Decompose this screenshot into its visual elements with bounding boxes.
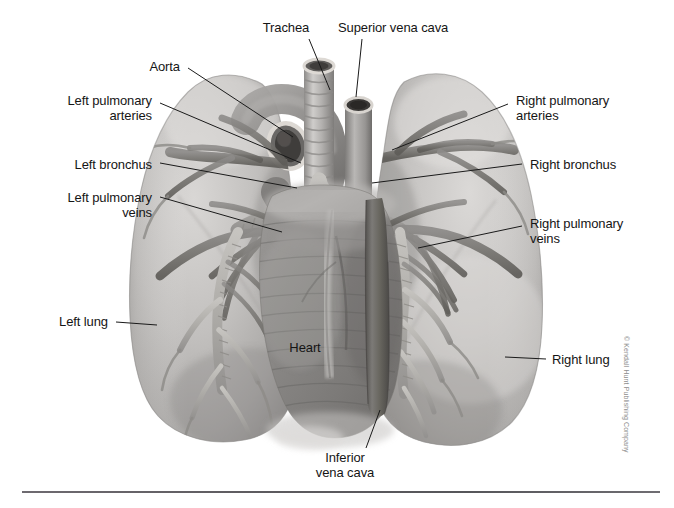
label-left-bronchus: Left bronchus [22, 157, 152, 172]
label-superior-vena-cava: Superior vena cava [338, 20, 498, 35]
label-right-lung: Right lung [552, 352, 648, 367]
copyright-notice: © Kendall Hunt Publishing Company [623, 336, 630, 476]
anatomy-figure: TracheaSuperior vena cavaAortaLeft pulmo… [0, 0, 674, 508]
bottom-divider-rule [22, 491, 660, 493]
label-left-pulmonary-veins: Left pulmonary veins [20, 190, 152, 220]
label-right-pulmonary-veins: Right pulmonary veins [530, 216, 670, 246]
label-layer: TracheaSuperior vena cavaAortaLeft pulmo… [0, 0, 674, 508]
label-aorta: Aorta [118, 59, 180, 74]
label-left-lung: Left lung [22, 314, 108, 329]
label-inferior-vena-cava: Inferior vena cava [303, 450, 387, 480]
label-left-pulmonary-arteries: Left pulmonary arteries [20, 93, 152, 123]
label-heart: Heart [278, 340, 332, 355]
label-trachea: Trachea [240, 20, 332, 35]
label-right-pulmonary-arteries: Right pulmonary arteries [516, 93, 656, 123]
label-right-bronchus: Right bronchus [530, 157, 660, 172]
